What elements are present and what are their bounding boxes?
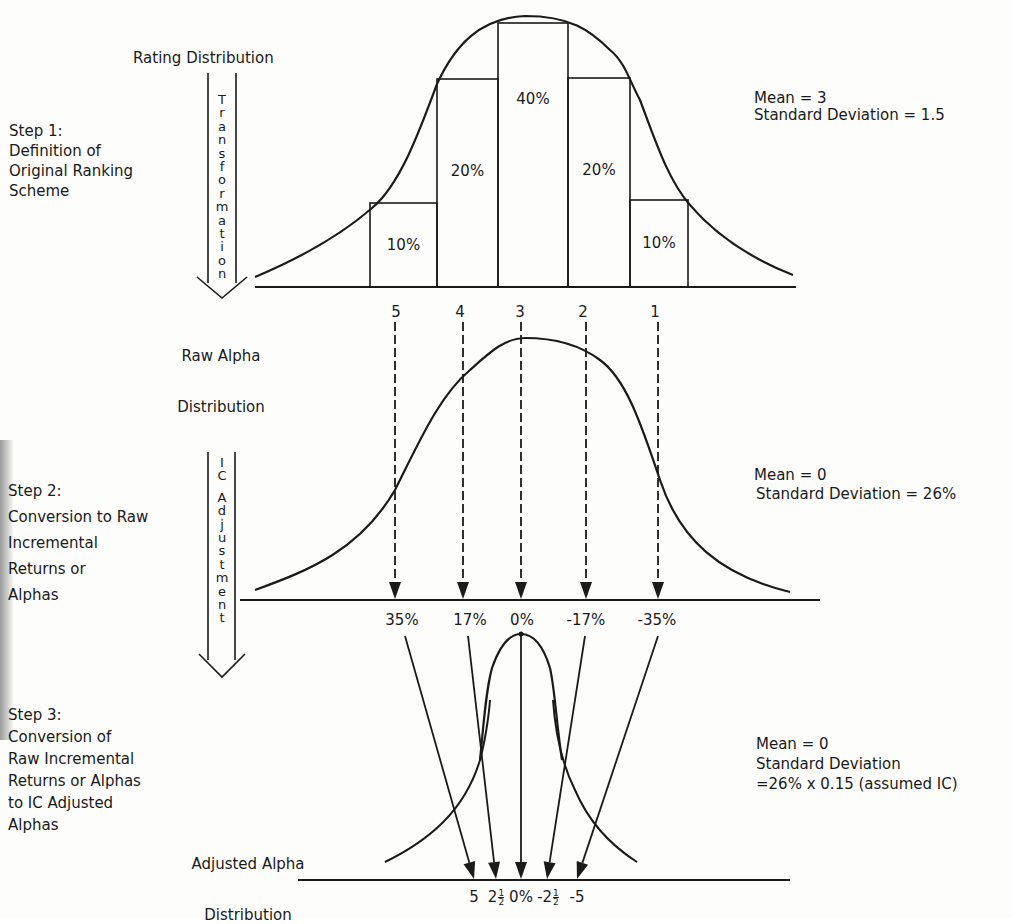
arrow-label-letter: A — [215, 491, 229, 504]
solid-mapping-arrow — [468, 636, 494, 862]
step3-adjusted-alpha-distribution — [298, 632, 790, 881]
adjusted-alpha-whole: -5 — [570, 888, 585, 906]
dashed-arrowhead — [580, 582, 592, 599]
step3-wide-reference-curve — [385, 700, 490, 862]
transformation-arrow-label: Transformation — [215, 93, 229, 281]
arrow-label-letter: I — [215, 456, 229, 469]
step3-std-dev-label: Standard Deviation — [756, 754, 958, 774]
dashed-arrowhead — [389, 582, 401, 599]
solid-mapping-arrows — [405, 636, 658, 879]
step3-stats: Mean = 0 Standard Deviation =26% x 0.15 … — [756, 734, 958, 794]
raw-alpha-title-line: Distribution — [166, 399, 276, 416]
step2-mean: Mean = 0 — [754, 466, 956, 485]
step2-label-line: Incremental — [8, 530, 148, 556]
arrow-label-letter: n — [215, 267, 229, 280]
step3-label: Step 3: Conversion of Raw Incremental Re… — [8, 704, 141, 836]
raw-alpha-label: 35% — [377, 612, 427, 629]
arrow-label-letter: f — [215, 160, 229, 173]
step3-wide-reference-curve-right — [553, 700, 637, 862]
step2-label: Step 2: Conversion to Raw Incremental Re… — [8, 478, 148, 608]
solid-mapping-arrow — [550, 636, 585, 862]
bar-rating-2 — [568, 78, 630, 287]
step1-label: Step 1: Definition of Original Ranking S… — [9, 121, 133, 201]
rating-distribution-title: Rating Distribution — [133, 50, 274, 67]
dashed-arrowhead — [457, 582, 469, 599]
bar-label-rating-4: 20% — [437, 163, 498, 180]
arrow-label-letter: m — [215, 571, 229, 584]
step3-peak-dot — [519, 632, 524, 637]
arrow-label-letter: n — [215, 133, 229, 146]
arrow-label-letter: j — [215, 518, 229, 531]
step2-label-line: Conversion to Raw — [8, 504, 148, 530]
arrow-label-letter: m — [215, 200, 229, 213]
solid-mapping-arrow — [582, 636, 658, 863]
arrow-label-letter: n — [215, 598, 229, 611]
step2-normal-curve — [255, 338, 790, 592]
bar-label-rating-3: 40% — [498, 91, 568, 108]
step2-raw-alpha-distribution — [240, 322, 820, 600]
step3-mean: Mean = 0 — [756, 734, 958, 754]
step1-label-line: Step 1: — [9, 121, 133, 141]
arrow-label-letter: o — [215, 173, 229, 186]
step2-label-line: Returns or — [8, 556, 148, 582]
step3-label-line: Raw Incremental — [8, 748, 141, 770]
arrow-label-letter: o — [215, 254, 229, 267]
arrow-label-letter: r — [215, 106, 229, 119]
arrow-label-letter: t — [215, 558, 229, 571]
arrow-label-letter: s — [215, 544, 229, 557]
step1-label-line: Original Ranking — [9, 161, 133, 181]
adjusted-alpha-whole: -2 — [537, 888, 552, 906]
step3-label-line: to IC Adjusted — [8, 792, 141, 814]
step1-std-dev: Standard Deviation = 1.5 — [754, 107, 945, 124]
bar-label-rating-5: 10% — [370, 237, 437, 254]
adjusted-alpha-distribution-title: Adjusted Alpha Distribution — [178, 822, 318, 924]
solid-arrowhead — [515, 862, 527, 879]
rating-label: 4 — [445, 304, 475, 321]
arrow-label-letter: u — [215, 531, 229, 544]
arrow-label-letter: d — [215, 504, 229, 517]
rating-label: 1 — [640, 304, 670, 321]
arrow-label-letter: i — [215, 240, 229, 253]
arrow-label-letter: a — [215, 120, 229, 133]
solid-arrowhead — [577, 861, 588, 879]
arrow-label-letter: C — [215, 469, 229, 482]
step3-label-line: Conversion of — [8, 726, 141, 748]
bar-rating-3 — [498, 23, 568, 287]
arrow-label-letter: e — [215, 585, 229, 598]
adjusted-alpha-whole: 2 — [488, 888, 498, 906]
adjusted-alpha-label: -5 — [557, 889, 597, 906]
rating-label: 2 — [568, 304, 598, 321]
step1-rating-distribution — [255, 16, 796, 287]
dashed-arrowhead — [515, 582, 527, 599]
arrow-label-letter: s — [215, 147, 229, 160]
step2-label-line: Step 2: — [8, 478, 148, 504]
bar-rating-4 — [437, 79, 498, 287]
bar-label-rating-1: 10% — [630, 235, 688, 252]
step3-std-dev-expression: =26% x 0.15 (assumed IC) — [756, 774, 958, 794]
adjusted-alpha-title-line: Distribution — [178, 907, 318, 924]
solid-arrowhead — [464, 861, 476, 879]
step2-stats: Mean = 0 Standard Deviation = 26% — [754, 466, 956, 504]
rating-label: 3 — [505, 304, 535, 321]
raw-alpha-label: -17% — [561, 612, 611, 629]
step2-std-dev: Standard Deviation = 26% — [756, 485, 956, 504]
raw-alpha-label: -35% — [632, 612, 682, 629]
step3-label-line: Step 3: — [8, 704, 141, 726]
solid-arrowhead — [488, 861, 500, 879]
arrow-label-letter: r — [215, 187, 229, 200]
solid-arrowhead — [544, 861, 556, 879]
arrow-label-letter: a — [215, 214, 229, 227]
arrow-label-letter: T — [215, 93, 229, 106]
step1-normal-curve — [255, 16, 793, 277]
rating-label: 5 — [381, 304, 411, 321]
raw-alpha-title-line: Raw Alpha — [166, 348, 276, 365]
arrow-label-letter: t — [215, 611, 229, 624]
bar-label-rating-2: 20% — [568, 162, 630, 179]
step2-label-line: Alphas — [8, 582, 148, 608]
ic-adjustment-arrow-label: IC Adjustment — [215, 456, 229, 625]
dashed-arrowhead — [652, 582, 664, 599]
raw-alpha-label: 0% — [497, 612, 547, 629]
dashed-mapping-arrows — [389, 322, 664, 599]
arrow-label-letter: t — [215, 227, 229, 240]
